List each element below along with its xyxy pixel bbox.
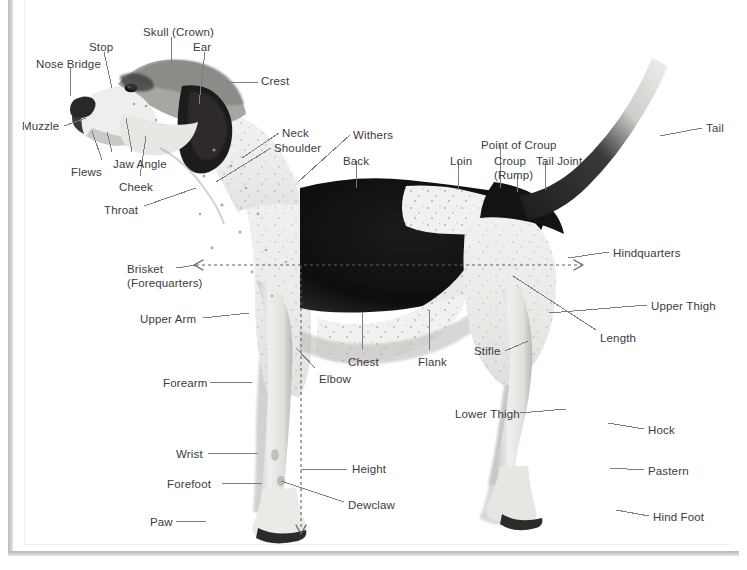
label-height: Height xyxy=(352,463,386,477)
label-croup-rump: Croup(Rump) xyxy=(494,155,533,182)
label-lower-thigh: Lower Thigh xyxy=(455,408,520,422)
label-stop: Stop xyxy=(89,41,113,55)
label-forearm: Forearm xyxy=(163,377,208,391)
label-muzzle: Muzzle xyxy=(22,120,59,134)
label-ear: Ear xyxy=(193,41,211,55)
label-pastern: Pastern xyxy=(648,465,689,479)
label-tail: Tail xyxy=(706,122,724,136)
label-crest: Crest xyxy=(261,75,289,89)
label-hind-foot: Hind Foot xyxy=(653,511,704,525)
label-withers: Withers xyxy=(353,129,393,143)
label-flews: Flews xyxy=(71,166,102,180)
label-tail-joint: Tail Joint xyxy=(536,155,582,169)
label-forefoot: Forefoot xyxy=(167,478,211,492)
label-nose-bridge: Nose Bridge xyxy=(36,58,101,72)
label-flank: Flank xyxy=(418,356,447,370)
label-jaw-angle: Jaw Angle xyxy=(113,158,167,172)
anatomy-diagram: Nose BridgeStopSkull (Crown)EarCrestMuzz… xyxy=(0,0,747,570)
label-back: Back xyxy=(343,155,369,169)
label-hindquarters: Hindquarters xyxy=(613,247,681,261)
label-brisket: Brisket(Forequarters) xyxy=(127,263,203,290)
label-stifle: Stifle xyxy=(474,345,500,359)
frame-inner-horizontal xyxy=(24,544,730,545)
label-paw: Paw xyxy=(150,516,173,530)
label-point-of-croup: Point of Croup xyxy=(481,139,557,153)
frame-left-edge xyxy=(8,0,13,556)
label-upper-thigh: Upper Thigh xyxy=(651,300,716,314)
label-cheek: Cheek xyxy=(119,181,153,195)
label-chest: Chest xyxy=(348,356,379,370)
frame-bottom-edge xyxy=(8,551,739,556)
label-shoulder: Shoulder xyxy=(274,142,321,156)
label-hock: Hock xyxy=(648,424,675,438)
measurement-lines xyxy=(0,0,747,570)
label-length: Length xyxy=(600,332,636,346)
label-upper-arm: Upper Arm xyxy=(140,313,196,327)
label-loin: Loin xyxy=(450,155,472,169)
label-neck: Neck xyxy=(282,127,309,141)
label-skull-crown: Skull (Crown) xyxy=(143,26,214,40)
label-dewclaw: Dewclaw xyxy=(348,499,395,513)
label-throat: Throat xyxy=(104,204,138,218)
label-wrist: Wrist xyxy=(176,448,203,462)
label-elbow: Elbow xyxy=(319,373,351,387)
frame-inner-vertical xyxy=(24,0,25,545)
